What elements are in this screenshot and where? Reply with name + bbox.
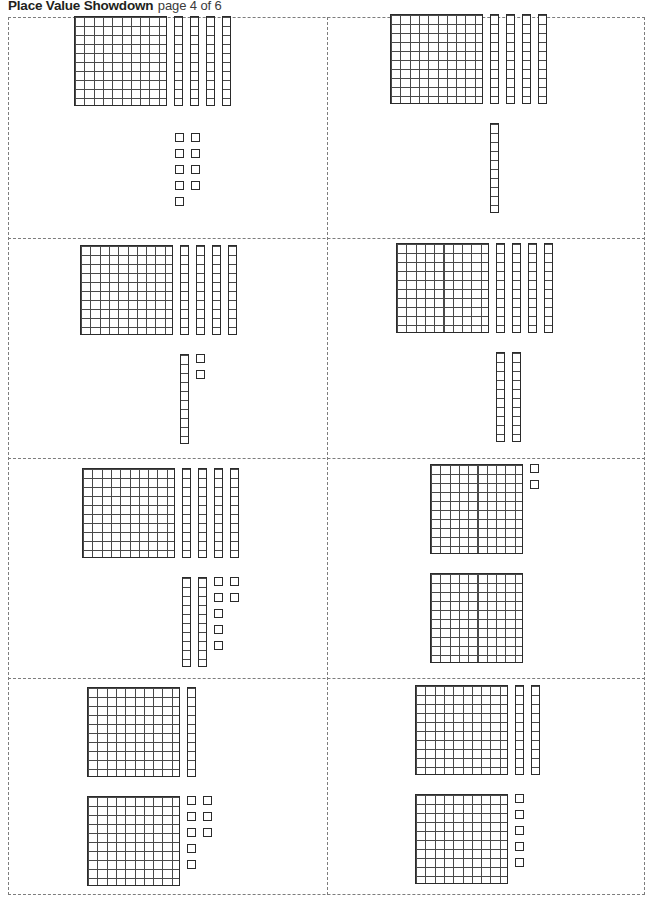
one-unit [196,370,205,379]
one-unit [214,609,223,618]
one-unit [175,181,184,190]
hundred-flat [415,685,508,775]
one-unit [515,810,524,819]
one-unit [187,796,196,805]
hundred-flat [415,794,508,884]
ten-rod [512,352,521,442]
ten-rod [496,352,505,442]
ten-rod [538,14,547,104]
card-4-group-2 [496,352,521,442]
hundred-flat [82,468,175,558]
card-2-group-1 [390,14,547,104]
ten-rod [182,468,191,558]
one-unit [214,593,223,602]
one-unit [187,812,196,821]
card-3-group-2 [180,354,205,444]
one-unit [187,844,196,853]
card-8-group-1 [415,685,540,775]
one-unit [214,577,223,586]
one-unit [515,842,524,851]
ten-rod [512,243,521,333]
ten-rod-group [496,243,553,333]
card-1[interactable] [8,17,327,238]
one-unit [191,133,200,142]
hundred-flat [80,245,173,335]
one-unit [530,464,539,473]
ten-rod [506,14,515,104]
ten-rod-group [180,245,237,335]
hundred-flat [430,464,523,554]
ten-rod [490,123,499,213]
card-7-group-2 [87,796,212,886]
card-7[interactable] [8,678,327,895]
one-unit-group [196,354,205,379]
ten-rod-group [180,354,189,444]
ten-rod [174,16,183,106]
ten-rod [198,468,207,558]
hundred-flat [87,796,180,886]
card-2[interactable] [327,17,645,238]
one-unit-group [214,577,239,650]
one-unit [230,577,239,586]
ten-rod [544,243,553,333]
card-6[interactable] [327,458,645,678]
card-1-group-2 [175,133,200,206]
ten-rod [190,16,199,106]
card-3[interactable] [8,238,327,458]
card-3-group-1 [80,245,237,335]
hundred-flat [430,573,523,663]
ten-rod [531,685,540,775]
one-unit [175,133,184,142]
ten-rod [180,245,189,335]
hundred-flat [87,687,180,777]
card-8[interactable] [327,678,645,895]
one-unit [515,858,524,867]
ten-rod [230,468,239,558]
cut-out-card-sheet [8,17,645,895]
ten-rod [182,577,191,667]
ten-rod [196,245,205,335]
page-indicator: page 4 of 6 [158,0,222,13]
card-4[interactable] [327,238,645,458]
one-unit-group [187,796,212,869]
card-grid [8,17,645,895]
ten-rod-group [182,577,207,667]
one-unit [196,354,205,363]
ten-rod-group [496,352,521,442]
card-4-group-1 [396,243,553,333]
one-unit-group [515,794,524,867]
ten-rod [198,577,207,667]
card-6-group-1 [430,464,539,554]
ten-rod-group [174,16,231,106]
card-5[interactable] [8,458,327,678]
ten-rod [222,16,231,106]
one-unit [515,826,524,835]
worksheet-title: Place Value Showdown [8,0,153,13]
ten-rod [212,245,221,335]
one-unit [214,641,223,650]
card-2-group-2 [490,123,499,213]
ten-rod [528,243,537,333]
ten-rod [496,243,505,333]
ten-rod-group [490,123,499,213]
card-8-group-2 [415,794,524,884]
one-unit [191,149,200,158]
card-7-group-1 [87,687,196,777]
ten-rod-group [515,685,540,775]
ten-rod [490,14,499,104]
one-unit [203,796,212,805]
ten-rod [228,245,237,335]
ten-rod [522,14,531,104]
one-unit [175,165,184,174]
one-unit-group [530,464,539,489]
one-unit [530,480,539,489]
one-unit [214,625,223,634]
one-unit [191,165,200,174]
hundred-flat [396,243,489,333]
card-5-group-2 [182,577,239,667]
page-header: Place Value Showdown page 4 of 6 [8,0,222,14]
one-unit [230,593,239,602]
hundred-flat [390,14,483,104]
one-unit [515,794,524,803]
ten-rod-group [187,687,196,777]
